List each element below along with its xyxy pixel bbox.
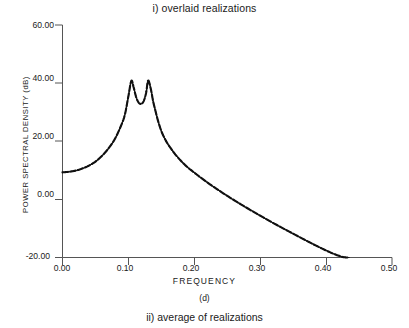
- y-tick-marks: [55, 25, 63, 258]
- x-tick-marks: [63, 258, 393, 266]
- psd-curve-underlay: [63, 81, 350, 258]
- plot-svg: [0, 0, 409, 328]
- psd-curve: [63, 81, 350, 258]
- psd-figure: i) overlaid realizations POWER SPECTRAL …: [0, 0, 409, 328]
